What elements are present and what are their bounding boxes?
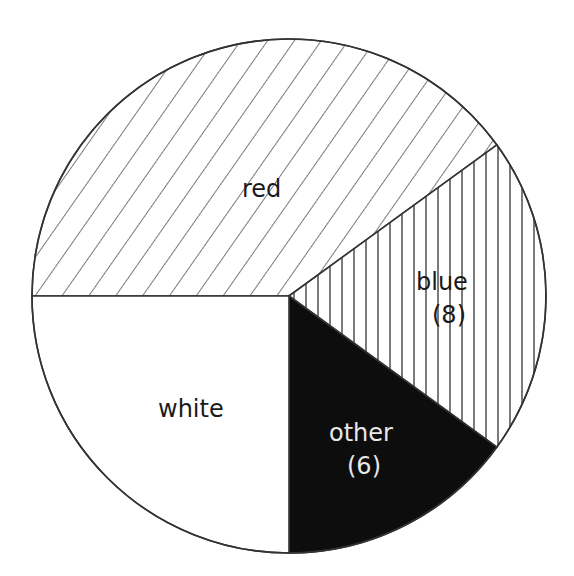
slice-label-other: other bbox=[329, 419, 393, 447]
slice-label-blue: blue bbox=[416, 268, 468, 296]
pie-chart: red blue (8) other (6) white bbox=[0, 0, 574, 576]
pie-slices bbox=[32, 39, 546, 553]
slice-value-other: (6) bbox=[347, 452, 381, 480]
slice-label-white: white bbox=[158, 395, 224, 423]
slice-value-blue: (8) bbox=[432, 301, 466, 329]
slice-label-red: red bbox=[242, 175, 281, 203]
slice-white bbox=[32, 296, 289, 553]
